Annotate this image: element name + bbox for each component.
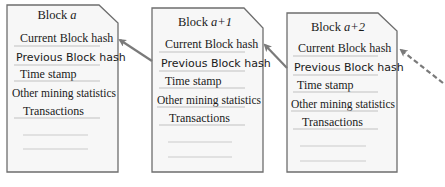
block-a-time-stamp: Time stamp bbox=[20, 67, 77, 81]
block-a1-time-stamp: Time stamp bbox=[165, 74, 222, 88]
block-a-plus-2: Block a+2 Current Block hash Previous Bl… bbox=[287, 13, 404, 172]
block-a1-title: Block a+1 bbox=[178, 15, 232, 29]
block-a-other-mining-stats: Other mining statistics bbox=[12, 86, 116, 100]
block-a-transactions: Transactions bbox=[23, 104, 84, 118]
block-a2-other-mining-stats: Other mining statistics bbox=[291, 97, 395, 111]
block-a1-previous-hash: Previous Block hash bbox=[161, 57, 271, 70]
block-a1-transactions: Transactions bbox=[169, 111, 230, 125]
arrow-next-to-a2-current-dashed bbox=[401, 50, 443, 83]
block-a-plus-1: Block a+1 Current Block hash Previous Bl… bbox=[152, 8, 271, 172]
block-a1-other-mining-stats: Other mining statistics bbox=[157, 93, 261, 107]
block-a1-outline bbox=[152, 8, 263, 172]
block-a2-transactions: Transactions bbox=[302, 115, 363, 129]
block-a2-previous-hash: Previous Block hash bbox=[294, 61, 404, 74]
block-a2-outline bbox=[287, 13, 397, 172]
block-a2-current-hash: Current Block hash bbox=[298, 41, 391, 55]
block-a1-current-hash: Current Block hash bbox=[165, 37, 258, 51]
block-a-title: Block a bbox=[37, 8, 76, 22]
blockchain-diagram: Block a Current Block hash Previous Bloc… bbox=[0, 0, 445, 187]
block-a-current-hash: Current Block hash bbox=[20, 31, 113, 45]
block-a: Block a Current Block hash Previous Bloc… bbox=[7, 5, 126, 172]
block-a-previous-hash: Previous Block hash bbox=[16, 51, 126, 64]
block-a2-time-stamp: Time stamp bbox=[297, 78, 354, 92]
block-a2-title: Block a+2 bbox=[311, 20, 365, 34]
